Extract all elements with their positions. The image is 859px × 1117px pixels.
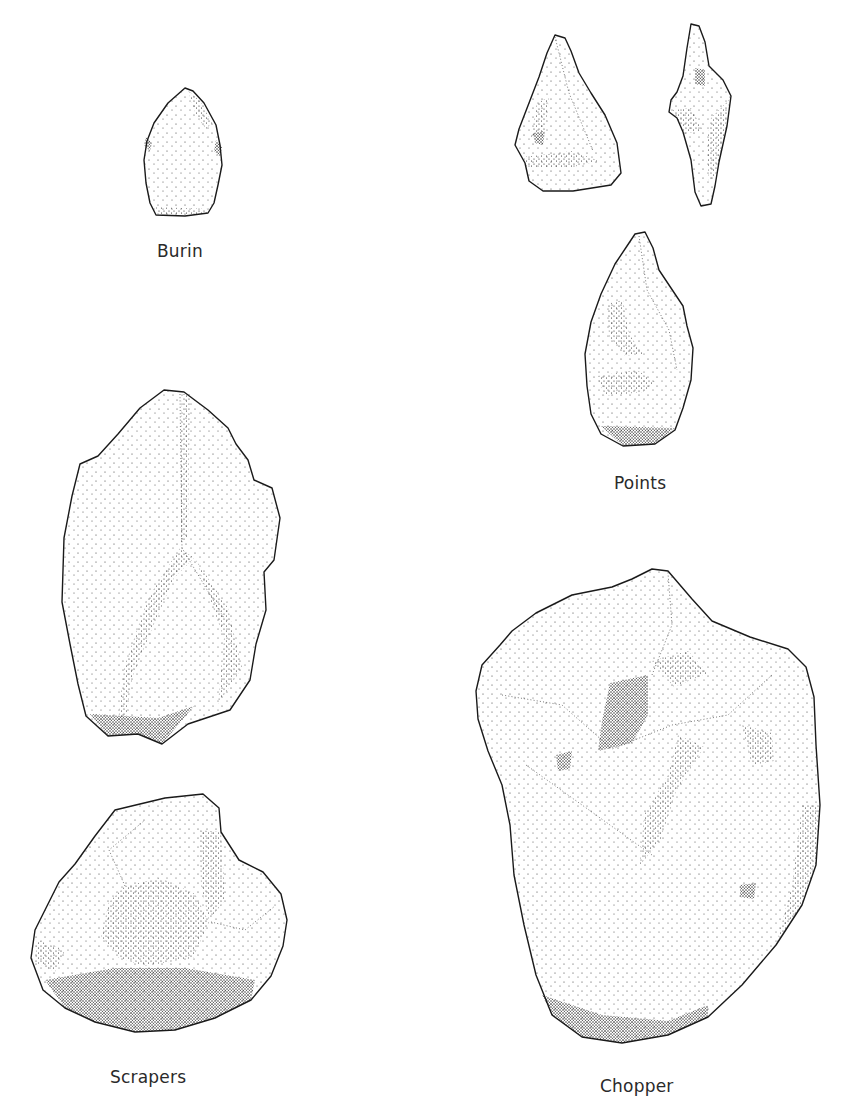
point-icon <box>583 230 703 448</box>
burin-icon <box>138 85 233 220</box>
points-label: Points <box>614 473 666 493</box>
burin-label: Burin <box>157 241 203 261</box>
burin-drawing <box>138 85 233 220</box>
scraper-drawing-1 <box>58 388 293 750</box>
chopper-icon <box>472 565 830 1045</box>
point-icon <box>665 22 737 208</box>
point-icon <box>513 33 625 193</box>
scraper-drawing-2 <box>25 790 295 1035</box>
scrapers-label: Scrapers <box>110 1067 186 1087</box>
stone-tools-illustration-plate: Burin Points <box>0 0 859 1117</box>
point-drawing-3 <box>583 230 703 448</box>
point-drawing-1 <box>513 33 625 193</box>
chopper-drawing <box>472 565 830 1045</box>
chopper-label: Chopper <box>600 1076 673 1096</box>
scraper-icon <box>25 790 295 1035</box>
scraper-icon <box>58 388 293 750</box>
point-drawing-2 <box>665 22 737 208</box>
